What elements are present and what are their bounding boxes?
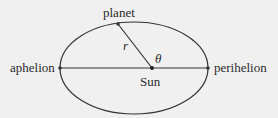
aphelion-point: [58, 66, 62, 70]
orbit-diagram: planet aphelion perihelion Sun r θ: [0, 0, 278, 118]
sun-point: [150, 66, 154, 70]
perihelion-label: perihelion: [214, 60, 267, 75]
sun-label: Sun: [140, 74, 161, 89]
planet-label: planet: [103, 5, 135, 20]
aphelion-label: aphelion: [10, 60, 55, 75]
orbit-svg: planet aphelion perihelion Sun r θ: [0, 0, 278, 118]
radius-label: r: [123, 38, 129, 53]
angle-theta-label: θ: [155, 51, 162, 66]
planet-point: [116, 22, 120, 26]
perihelion-point: [206, 66, 210, 70]
